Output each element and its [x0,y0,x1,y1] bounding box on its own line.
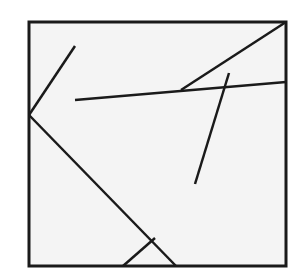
diagram-canvas [0,0,300,274]
geometry-figure [0,0,300,274]
